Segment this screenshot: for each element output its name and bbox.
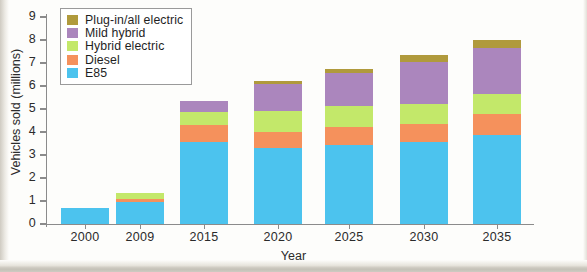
bar-segment [400, 62, 448, 105]
bar-segment [325, 69, 373, 74]
x-axis-title: Year [0, 249, 587, 263]
bar-segment [325, 73, 373, 105]
y-axis-tick-label: 6 [22, 78, 36, 92]
bar-segment [254, 132, 302, 148]
bar-2020 [254, 17, 302, 224]
bar-segment [473, 48, 521, 94]
y-axis-tick-label: 0 [22, 216, 36, 230]
y-axis-title: Vehicles sold (millions) [9, 42, 23, 182]
legend-swatch-icon [67, 55, 78, 65]
bar-segment [473, 114, 521, 136]
y-axis-tick-label: 2 [22, 170, 36, 184]
legend-item-label: E85 [85, 66, 107, 80]
legend-swatch-icon [67, 28, 78, 38]
bar-2035 [473, 17, 521, 224]
x-axis-tick-label: 2020 [248, 230, 308, 244]
bar-segment [180, 125, 228, 142]
x-axis-tick-label: 2035 [467, 230, 527, 244]
scan-edge-left [0, 0, 9, 272]
bar-segment [325, 145, 373, 224]
legend-item: Diesel [67, 53, 183, 66]
legend-swatch-icon [67, 41, 78, 51]
chart-legend: Plug-in/all electricMild hybridHybrid el… [60, 8, 192, 85]
legend-swatch-icon [67, 68, 78, 78]
bar-segment [116, 199, 164, 202]
x-axis-tick [349, 224, 350, 229]
legend-swatch-icon [67, 15, 78, 25]
bar-segment [400, 55, 448, 62]
bar-segment [400, 124, 448, 142]
bar-segment [180, 112, 228, 125]
bar-segment [254, 111, 302, 132]
x-axis-tick-label: 2025 [319, 230, 379, 244]
x-axis-tick [424, 224, 425, 229]
legend-item-label: Plug-in/all electric [85, 13, 183, 27]
x-axis-tick-label: 2000 [55, 230, 115, 244]
legend-item: Hybrid electric [67, 40, 183, 53]
y-axis-tick-label: 9 [22, 9, 36, 23]
x-axis-tick [497, 224, 498, 229]
bar-segment [325, 106, 373, 128]
bar-2030 [400, 17, 448, 224]
bar-segment [400, 142, 448, 224]
x-axis-tick-label: 2030 [394, 230, 454, 244]
legend-item-label: Mild hybrid [85, 26, 146, 40]
y-axis-tick-label: 8 [22, 32, 36, 46]
bar-segment [116, 193, 164, 199]
legend-item-label: Hybrid electric [85, 39, 164, 53]
bar-segment [180, 101, 228, 113]
legend-item: Plug-in/all electric [67, 13, 183, 26]
x-axis-tick [204, 224, 205, 229]
bar-2025 [325, 17, 373, 224]
x-axis-tick [85, 224, 86, 229]
scan-edge-bottom-line [0, 268, 587, 272]
bar-segment [473, 40, 521, 48]
bar-segment [473, 94, 521, 114]
bar-segment [254, 148, 302, 224]
y-axis-tick-label: 4 [22, 124, 36, 138]
y-axis-tick-label: 7 [22, 55, 36, 69]
bar-segment [254, 81, 302, 83]
x-axis-tick-label: 2015 [174, 230, 234, 244]
bar-segment [473, 135, 521, 224]
x-axis-tick [140, 224, 141, 229]
chart-page: 0123456789 2000200920152020202520302035 … [0, 0, 587, 272]
y-axis-tick-label: 3 [22, 147, 36, 161]
bar-segment [400, 104, 448, 124]
x-axis-tick [278, 224, 279, 229]
legend-item-label: Diesel [85, 53, 120, 67]
scan-edge-right [583, 0, 587, 272]
legend-item: Mild hybrid [67, 26, 183, 39]
bar-segment [116, 202, 164, 224]
y-axis-tick-label: 1 [22, 193, 36, 207]
bar-segment [61, 208, 109, 224]
bar-segment [180, 142, 228, 224]
legend-item: E85 [67, 67, 183, 80]
bar-segment [325, 127, 373, 144]
y-axis-tick-label: 5 [22, 101, 36, 115]
x-axis-tick-label: 2009 [110, 230, 170, 244]
bar-segment [254, 84, 302, 112]
